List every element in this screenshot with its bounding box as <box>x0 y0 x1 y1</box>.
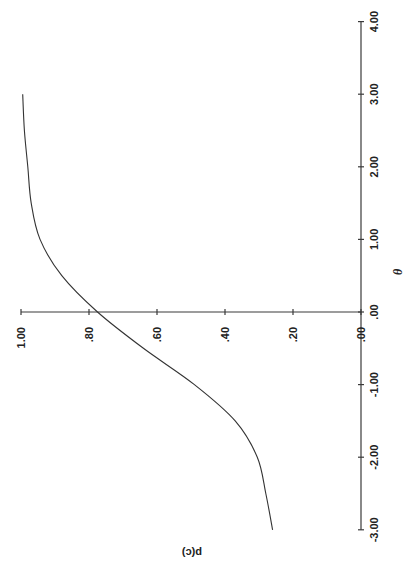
icc-chart: -3.00-2.00-1.00.001.002.003.004.00 .00.2… <box>0 0 413 565</box>
theta-tick-label: -1.00 <box>368 372 380 397</box>
p-tick-label: .60 <box>151 327 163 342</box>
theta-tick-label: .00 <box>368 304 380 319</box>
theta-tick-label: 4.00 <box>368 11 380 32</box>
p-tick-label: .80 <box>83 327 95 342</box>
p-tick-label: 1.00 <box>15 327 27 348</box>
p-tick-label: .40 <box>219 327 231 342</box>
theta-tick-label: -3.00 <box>368 517 380 542</box>
theta-tick-label: 2.00 <box>368 156 380 177</box>
theta-tick-label: 1.00 <box>368 229 380 250</box>
p-tick-label: .20 <box>287 327 299 342</box>
theta-tick-label: -2.00 <box>368 445 380 470</box>
p-axis: .00.20.40.60.801.00 <box>15 309 367 348</box>
p-tick-label: .00 <box>355 327 367 342</box>
theta-tick-label: 3.00 <box>368 83 380 104</box>
theta-axis: -3.00-2.00-1.00.001.002.003.004.00 <box>358 11 380 542</box>
theta-axis-title: θ <box>391 268 405 275</box>
p-axis-title: p(c) <box>182 547 203 559</box>
